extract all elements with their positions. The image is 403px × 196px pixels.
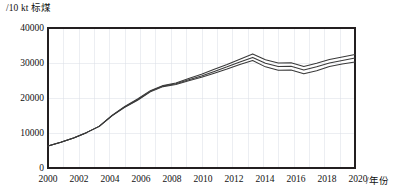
series-line-scenario-upper [48, 54, 355, 146]
series-line-scenario-middle [48, 57, 355, 146]
plot-area [0, 0, 403, 196]
gridlines [48, 28, 356, 169]
chart-figure: /10 kt 标煤 /年份 40000 30000 20000 10000 0 … [0, 0, 403, 196]
series-lines [48, 54, 355, 146]
plot-frame [48, 28, 355, 168]
series-line-scenario-lower [48, 61, 355, 146]
